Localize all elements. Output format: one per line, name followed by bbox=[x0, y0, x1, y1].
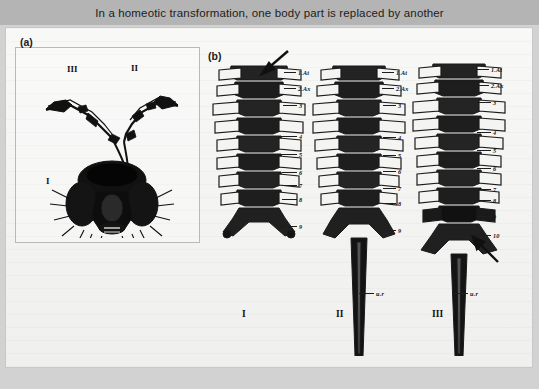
column-two-segment-3: 3 bbox=[398, 102, 401, 109]
column-one-segment-4: 4 bbox=[299, 133, 302, 140]
column-two-segment-9: 9 bbox=[398, 227, 401, 234]
column-three-roman: III bbox=[432, 309, 443, 319]
fly-label-two: II bbox=[131, 63, 138, 73]
column-three-leader-1 bbox=[476, 69, 489, 70]
column-three-segment-5: 5 bbox=[493, 147, 496, 154]
down-left-arrow-icon bbox=[254, 48, 290, 78]
column-three-leader-4 bbox=[477, 132, 491, 133]
column-one-leader-2 bbox=[284, 88, 296, 89]
panel-a-label: (a) bbox=[20, 36, 33, 48]
fly-head-illustration bbox=[28, 58, 193, 238]
column-two-segment-7: 7 bbox=[398, 185, 401, 192]
figure-page: In a homeotic transformation, one body p… bbox=[0, 0, 539, 389]
column-two-leader-1 bbox=[382, 72, 394, 73]
column-one-leader-7 bbox=[282, 185, 297, 186]
column-three-leader-8 bbox=[474, 200, 491, 201]
fly-label-one: I bbox=[46, 176, 50, 186]
column-one-leader-3 bbox=[283, 105, 297, 106]
column-two-segment-1: 1.At bbox=[396, 69, 407, 76]
column-two-urostyle-label: u.r bbox=[376, 290, 384, 297]
column-two-leader-9 bbox=[381, 230, 396, 231]
column-two-leader-4 bbox=[383, 137, 396, 138]
vertebral-column-three-illustration bbox=[411, 52, 507, 356]
column-one-segment-2: 2.Ax bbox=[298, 85, 311, 92]
column-three-urostyle-leader bbox=[454, 293, 468, 294]
vertebral-column-two-illustration bbox=[311, 56, 407, 356]
column-three-segment-7: 7 bbox=[493, 186, 496, 193]
column-three-leader-5 bbox=[477, 150, 491, 151]
column-two-roman: II bbox=[336, 309, 343, 319]
column-two-leader-8 bbox=[383, 203, 396, 204]
column-two-leader-6 bbox=[383, 171, 396, 172]
fly-label-three: III bbox=[67, 64, 78, 74]
figure-caption-text: In a homeotic transformation, one body p… bbox=[95, 7, 444, 19]
column-one-leader-4 bbox=[281, 136, 297, 137]
column-three-segment-6: 6 bbox=[493, 165, 496, 172]
column-one-leader-9 bbox=[280, 226, 297, 227]
column-one-segment-5: 5 bbox=[299, 151, 302, 158]
column-three-urostyle-label: u.r bbox=[470, 290, 478, 297]
column-one-segment-1: 1.At bbox=[298, 69, 309, 76]
column-one-leader-8 bbox=[282, 199, 297, 200]
column-two-segment-5: 5 bbox=[398, 152, 401, 159]
column-three-leader-2 bbox=[476, 85, 489, 86]
column-three-segment-9: 9 bbox=[493, 213, 496, 220]
column-three-segment-3: 3 bbox=[493, 99, 496, 106]
column-one-leader-6 bbox=[282, 172, 297, 173]
up-left-arrow-icon bbox=[468, 234, 500, 266]
figure-caption-bar: In a homeotic transformation, one body p… bbox=[0, 0, 539, 25]
column-two-urostyle-leader bbox=[359, 293, 374, 294]
column-one-roman: I bbox=[242, 309, 246, 319]
column-one-segment-3: 3 bbox=[299, 102, 302, 109]
column-one-segment-9: 9 bbox=[299, 223, 302, 230]
column-two-leader-7 bbox=[383, 188, 396, 189]
column-one-segment-8: 8 bbox=[299, 196, 302, 203]
column-three-leader-9 bbox=[476, 216, 491, 217]
column-three-segment-1: 1.At bbox=[491, 66, 502, 73]
column-one-segment-6: 6 bbox=[299, 169, 302, 176]
column-two-segment-6: 6 bbox=[398, 168, 401, 175]
column-two-leader-5 bbox=[383, 155, 396, 156]
column-two-segment-2: 2.Ax bbox=[396, 85, 409, 92]
column-three-leader-3 bbox=[477, 102, 491, 103]
column-three-segment-2: 2.Ax bbox=[491, 82, 504, 89]
column-one-segment-7: 7 bbox=[299, 182, 302, 189]
column-three-segment-8: 8 bbox=[493, 197, 496, 204]
column-two-segment-4: 4 bbox=[398, 134, 401, 141]
figure-frame: (a) bbox=[5, 27, 533, 368]
column-one-leader-5 bbox=[281, 154, 297, 155]
column-two-segment-8: 8 bbox=[398, 200, 401, 207]
column-two-leader-3 bbox=[383, 105, 396, 106]
column-three-leader-6 bbox=[477, 168, 491, 169]
column-two-leader-2 bbox=[382, 88, 394, 89]
column-three-leader-7 bbox=[474, 189, 491, 190]
column-three-segment-4: 4 bbox=[493, 129, 496, 136]
